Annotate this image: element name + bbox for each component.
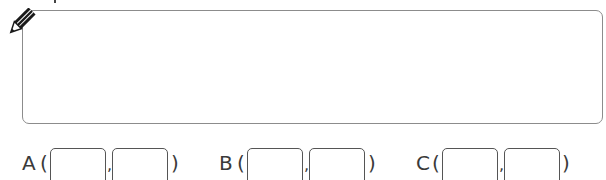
cropped-text-mark (54, 0, 56, 3)
point-c-label: C (416, 150, 430, 176)
answer-text-area[interactable] (22, 10, 603, 124)
point-a-close-paren: ) (171, 150, 179, 176)
point-b-label: B (219, 150, 233, 176)
point-b-x-input[interactable] (247, 148, 303, 180)
point-b-close-paren: ) (368, 150, 376, 176)
pencil-icon (4, 8, 36, 38)
point-a-open-paren: ( (40, 150, 48, 176)
point-a-x-input[interactable] (50, 148, 106, 180)
point-c-close-paren: ) (562, 150, 570, 176)
point-b-y-input[interactable] (309, 148, 365, 180)
point-c-open-paren: ( (432, 150, 440, 176)
point-c-x-input[interactable] (442, 148, 498, 180)
point-a-label: A (22, 150, 36, 176)
point-c-y-input[interactable] (504, 148, 560, 180)
point-a-y-input[interactable] (112, 148, 168, 180)
point-b-open-paren: ( (237, 150, 245, 176)
